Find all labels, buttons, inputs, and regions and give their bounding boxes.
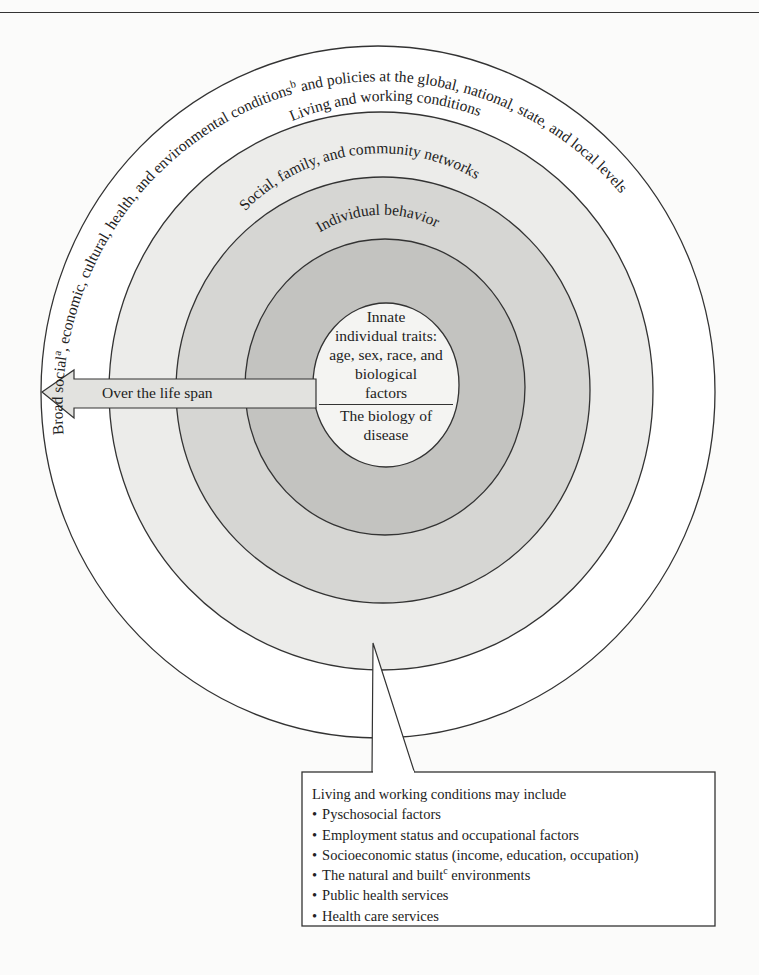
innate-line: age, sex, race, and	[313, 345, 459, 364]
callout-item: Employment status and occupational facto…	[312, 825, 715, 845]
biology-line: The biology of	[313, 406, 459, 425]
innate-line: Innate	[313, 307, 459, 326]
innate-line: factors	[313, 383, 459, 402]
life-span-label: Over the life span	[82, 380, 312, 406]
center-divider	[319, 404, 453, 405]
callout-item: The natural and builtc environments	[312, 865, 715, 885]
living-conditions-callout: Living and working conditions may includ…	[302, 772, 715, 926]
innate-line: individual traits:	[313, 326, 459, 345]
callout-item: Socioeconomic status (income, education,…	[312, 845, 715, 865]
callout-item: Pyschosocial factors	[312, 804, 715, 824]
biology-line: disease	[313, 425, 459, 444]
callout-item: Health care services	[312, 906, 715, 926]
callout-item: Public health services	[312, 885, 715, 905]
callout-title: Living and working conditions may includ…	[312, 784, 715, 804]
callout-list: Pyschosocial factors Employment status a…	[312, 804, 715, 926]
innate-line: biological	[313, 364, 459, 383]
innate-traits-text: Innate individual traits: age, sex, race…	[313, 307, 459, 444]
